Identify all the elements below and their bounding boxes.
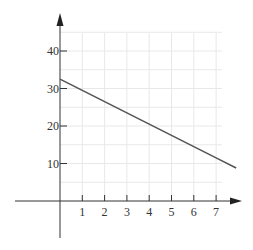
data-series (60, 79, 236, 168)
y-tick-label: 20 (47, 119, 59, 133)
x-tick-label: 5 (169, 205, 175, 219)
grid (60, 32, 222, 201)
y-tick-label: 10 (47, 157, 59, 171)
y-axis-arrow-icon (57, 13, 64, 26)
x-tick-label: 3 (124, 205, 130, 219)
x-tick-label: 2 (102, 205, 108, 219)
series-line (60, 79, 236, 168)
x-tick-label: 4 (146, 205, 152, 219)
y-tick-label: 40 (47, 44, 59, 58)
x-axis-arrow-icon (230, 198, 242, 205)
line-chart: 1234567 10203040 (0, 0, 253, 250)
y-tick-label: 30 (47, 82, 59, 96)
x-tick-label: 6 (191, 205, 197, 219)
x-tick-label: 7 (213, 205, 219, 219)
x-ticks: 1234567 (79, 195, 219, 219)
x-tick-label: 1 (79, 205, 85, 219)
